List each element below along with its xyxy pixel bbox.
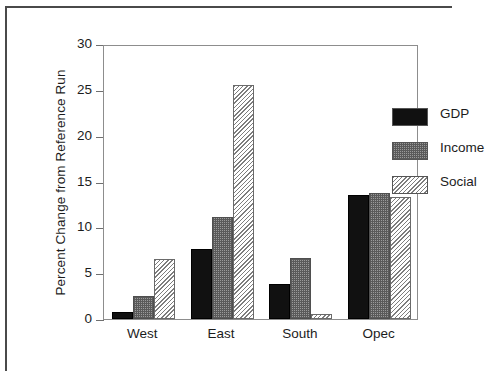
legend-label-social: Social — [440, 174, 477, 189]
y-tick-label: 0 — [52, 311, 92, 326]
bar-west-gdp — [112, 312, 133, 319]
bar-opec-income — [369, 193, 390, 320]
legend-item-social: Social — [392, 174, 489, 208]
x-tick-label-east: East — [176, 326, 266, 341]
y-tick-label: 15 — [52, 174, 92, 189]
legend-label-gdp: GDP — [440, 106, 469, 121]
y-tick-mark — [96, 320, 104, 321]
plot-area: GDP Income Social — [103, 45, 418, 320]
legend-swatch-gdp — [392, 108, 428, 126]
y-tick-label: 5 — [52, 265, 92, 280]
bar-south-income — [290, 258, 311, 319]
legend-swatch-social — [392, 176, 428, 194]
bar-west-social — [154, 259, 175, 319]
bars-layer — [104, 46, 417, 319]
x-tick-label-opec: Opec — [334, 326, 424, 341]
bar-south-gdp — [269, 284, 290, 319]
bar-east-income — [212, 217, 233, 319]
y-tick-label: 10 — [52, 219, 92, 234]
legend-label-income: Income — [440, 140, 484, 155]
bar-south-social — [311, 314, 332, 319]
y-tick-label: 25 — [52, 82, 92, 97]
legend-item-income: Income — [392, 140, 489, 174]
x-tick-label-south: South — [255, 326, 345, 341]
bar-opec-social — [390, 197, 411, 319]
legend-item-gdp: GDP — [392, 106, 489, 140]
legend-swatch-income — [392, 142, 428, 160]
chart-legend: GDP Income Social — [392, 106, 489, 208]
bar-west-income — [133, 296, 154, 319]
bar-east-social — [233, 85, 254, 319]
bar-opec-gdp — [348, 195, 369, 319]
bar-east-gdp — [191, 249, 212, 319]
y-tick-label: 20 — [52, 128, 92, 143]
x-tick-label-west: West — [97, 326, 187, 341]
y-tick-label: 30 — [52, 36, 92, 51]
